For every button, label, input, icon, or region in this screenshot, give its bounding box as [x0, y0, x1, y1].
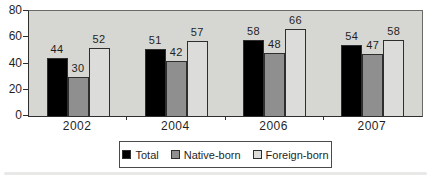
bar-total-2006 [243, 40, 264, 116]
legend-entry-label: Foreign-born [266, 149, 329, 161]
bar-value-label: 58 [239, 25, 269, 37]
legend-swatch-icon [253, 150, 262, 159]
y-axis-tick-label: 80 [0, 3, 22, 17]
y-axis-tick-label: 60 [0, 29, 22, 43]
legend-entry-total: Total [122, 149, 158, 161]
y-axis-tick-label: 40 [0, 56, 22, 70]
x-axis-category-label: 2007 [323, 119, 421, 133]
y-axis-tick-mark [23, 115, 28, 116]
bar-chart-figure: 443052514257584866544758 TotalNative-bor… [0, 0, 431, 177]
y-axis-tick-mark [23, 89, 28, 90]
x-axis-category-label: 2004 [126, 119, 224, 133]
legend-entry-label: Total [135, 149, 158, 161]
bar-total-2004 [145, 49, 166, 116]
bar-total-2007 [341, 45, 362, 116]
legend-swatch-icon [171, 150, 180, 159]
bar-foreign-born-2006 [285, 29, 306, 116]
bar-value-label: 44 [42, 43, 72, 55]
scan-artifact-line [4, 172, 427, 175]
y-axis-tick-mark [23, 10, 28, 11]
legend-entry-label: Native-born [184, 149, 241, 161]
bar-foreign-born-2002 [89, 48, 110, 116]
bar-foreign-born-2007 [383, 40, 404, 116]
legend-entry-foreign-born: Foreign-born [253, 149, 329, 161]
chart-legend: TotalNative-bornForeign-born [119, 141, 332, 168]
y-axis-tick-label: 0 [0, 108, 22, 122]
bar-value-label: 57 [182, 26, 212, 38]
y-axis-tick-mark [23, 63, 28, 64]
bar-value-label: 66 [281, 14, 311, 26]
bar-native-born-2002 [68, 77, 89, 116]
y-axis-tick-label: 20 [0, 82, 22, 96]
bar-value-label: 51 [140, 34, 170, 46]
legend-swatch-icon [122, 150, 131, 159]
bar-foreign-born-2004 [187, 41, 208, 116]
bar-native-born-2007 [362, 54, 383, 116]
y-axis-tick-mark [23, 36, 28, 37]
plot-area: 443052514257584866544758 [28, 10, 423, 117]
bar-native-born-2006 [264, 53, 285, 116]
x-axis-category-label: 2002 [28, 119, 126, 133]
legend-entry-native-born: Native-born [171, 149, 241, 161]
x-axis-category-label: 2006 [225, 119, 323, 133]
bar-value-label: 58 [379, 25, 409, 37]
bar-native-born-2004 [166, 61, 187, 116]
bar-value-label: 52 [84, 33, 114, 45]
